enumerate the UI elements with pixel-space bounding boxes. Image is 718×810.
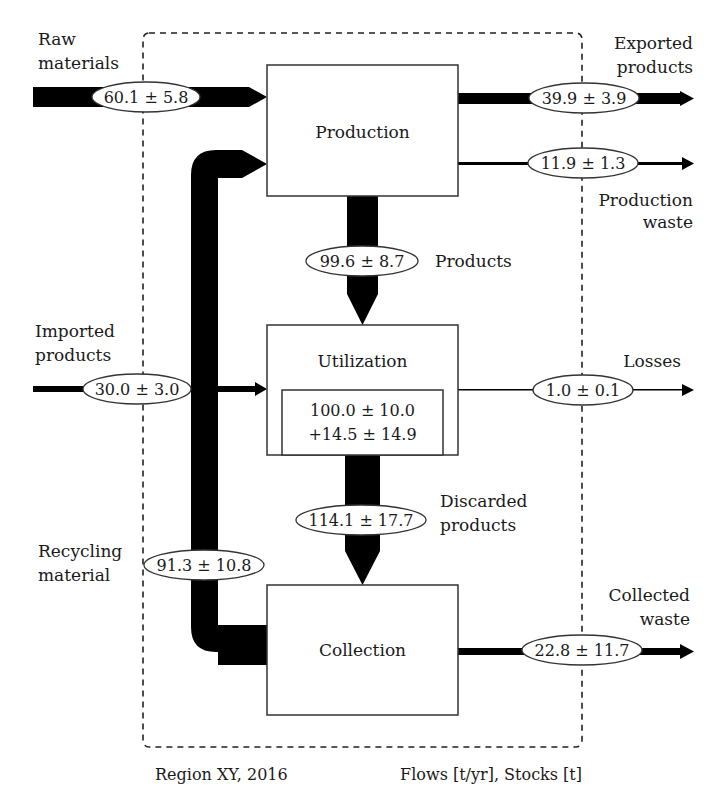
svg-text:60.1 ± 5.8: 60.1 ± 5.8 xyxy=(104,88,189,107)
value-discarded-products: 114.1 ± 17.7 xyxy=(296,505,426,535)
label-raw-materials-1: Raw xyxy=(38,29,76,49)
flow-recycling-material xyxy=(191,150,267,665)
label-losses: Losses xyxy=(623,351,681,371)
process-production: Production xyxy=(267,65,458,196)
value-recycling-material: 91.3 ± 10.8 xyxy=(144,550,264,580)
label-raw-materials-2: materials xyxy=(38,53,119,73)
svg-text:11.9 ± 1.3: 11.9 ± 1.3 xyxy=(541,154,626,173)
value-losses: 1.0 ± 0.1 xyxy=(533,375,633,405)
material-flow-diagram: Production Utilization 100.0 ± 10.0 +14.… xyxy=(0,0,718,810)
value-products: 99.6 ± 8.7 xyxy=(306,246,418,276)
process-collection: Collection xyxy=(267,585,458,715)
region-caption: Region XY, 2016 xyxy=(155,765,288,784)
process-utilization: Utilization 100.0 ± 10.0 +14.5 ± 14.9 xyxy=(267,325,458,455)
label-collected-waste-1: Collected xyxy=(609,585,691,605)
label-imported-products-2: products xyxy=(35,345,111,365)
value-production-waste: 11.9 ± 1.3 xyxy=(528,148,638,178)
label-production-waste-2: waste xyxy=(643,212,693,232)
svg-text:1.0 ± 0.1: 1.0 ± 0.1 xyxy=(546,381,620,400)
production-label: Production xyxy=(315,122,410,142)
label-exported-products-2: products xyxy=(617,57,693,77)
svg-text:91.3 ± 10.8: 91.3 ± 10.8 xyxy=(157,556,252,575)
label-collected-waste-2: waste xyxy=(640,609,690,629)
label-discarded-products-2: products xyxy=(440,515,516,535)
utilization-label: Utilization xyxy=(317,351,407,371)
svg-text:114.1 ± 17.7: 114.1 ± 17.7 xyxy=(308,511,413,530)
value-exported-products: 39.9 ± 3.9 xyxy=(529,83,639,113)
stock-value-line2: +14.5 ± 14.9 xyxy=(308,425,416,444)
label-products: Products xyxy=(435,251,512,271)
label-production-waste-1: Production xyxy=(598,190,693,210)
units-caption: Flows [t/yr], Stocks [t] xyxy=(400,765,582,784)
label-recycling-material-2: material xyxy=(38,565,110,585)
svg-text:99.6 ± 8.7: 99.6 ± 8.7 xyxy=(320,252,405,271)
collection-label: Collection xyxy=(319,640,406,660)
label-imported-products-1: Imported xyxy=(35,321,115,341)
utilization-stock-box xyxy=(282,390,443,455)
svg-text:39.9 ± 3.9: 39.9 ± 3.9 xyxy=(542,89,627,108)
stock-value-line1: 100.0 ± 10.0 xyxy=(310,401,415,420)
svg-text:22.8 ± 11.7: 22.8 ± 11.7 xyxy=(535,641,630,660)
label-exported-products-1: Exported xyxy=(614,33,693,53)
value-collected-waste: 22.8 ± 11.7 xyxy=(522,635,642,665)
label-discarded-products-1: Discarded xyxy=(440,491,528,511)
value-raw-materials: 60.1 ± 5.8 xyxy=(92,82,200,112)
value-imported-products: 30.0 ± 3.0 xyxy=(83,374,191,404)
svg-text:30.0 ± 3.0: 30.0 ± 3.0 xyxy=(95,380,180,399)
label-recycling-material-1: Recycling xyxy=(38,541,122,561)
